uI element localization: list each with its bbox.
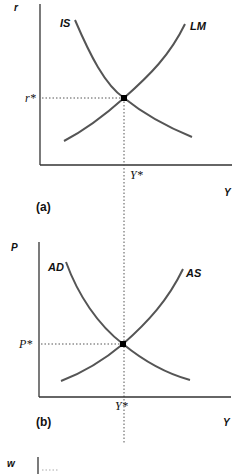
y-axis-label-b: Y (223, 418, 230, 428)
p-axis-label: P (11, 243, 18, 253)
ad-curve (66, 262, 190, 380)
p-star-label: P* (19, 338, 32, 350)
is-label: IS (60, 18, 70, 29)
panel-a-label: (a) (36, 201, 51, 213)
r-star-label: r* (25, 92, 36, 104)
ad-label: AD (48, 262, 64, 273)
as-label: AS (186, 268, 201, 279)
equilibrium-point-b (120, 341, 126, 347)
y-star-label-b: Y* (115, 400, 128, 412)
as-curve (61, 269, 183, 381)
equilibrium-point-a (121, 95, 127, 101)
panel-b-label: (b) (36, 416, 51, 428)
y-axis-label-a: Y (224, 188, 231, 198)
lm-label: LM (190, 21, 206, 32)
r-axis-label: r (14, 3, 18, 13)
y-star-label-a: Y* (130, 169, 143, 181)
w-axis-label: w (7, 459, 15, 469)
is-curve (75, 20, 192, 137)
